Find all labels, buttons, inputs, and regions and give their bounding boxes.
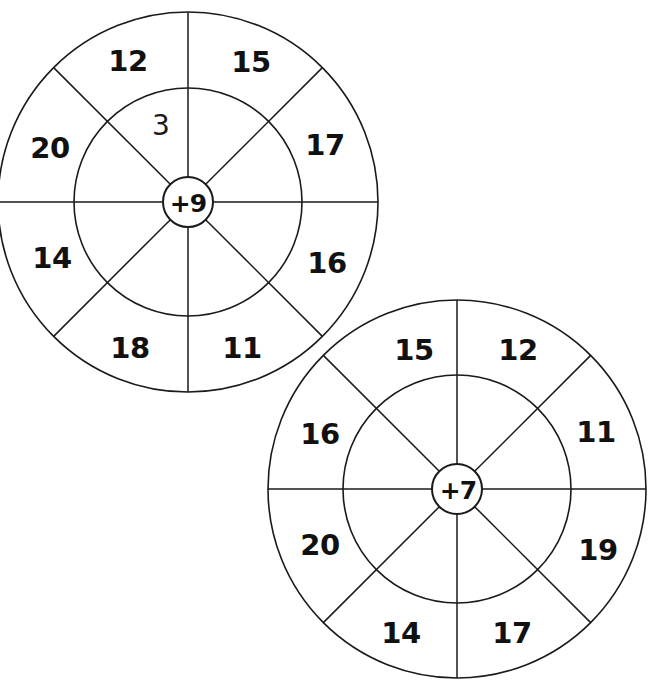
wheel-2-outer-number-4: 14 [381,619,420,648]
wheel-1-outer-number-2: 16 [307,249,346,278]
wheel-2-outer-number-6: 16 [300,420,339,449]
wheel-2-outer-number-3: 17 [492,619,531,648]
wheel-1-inner-answer-7[interactable]: 3 [152,112,170,140]
wheel-2-outer-number-7: 15 [394,336,433,365]
wheel-2-outer-number-1: 11 [576,418,615,447]
wheel-1-outer-number-6: 20 [30,134,69,163]
wheel-1-operator-label: +9 [170,191,206,216]
wheel-2-operator-label: +7 [440,478,476,503]
wheel-1-outer-number-5: 14 [32,244,71,273]
wheel-2-outer-number-2: 19 [578,536,617,565]
wheels-vector-layer [0,0,648,685]
wheel-1-outer-number-7: 12 [108,47,147,76]
wheel-2-outer-number-0: 12 [498,336,537,365]
wheel-1-outer-number-3: 11 [222,334,261,363]
wheel-1-outer-number-4: 18 [110,334,149,363]
wheel-1-outer-number-0: 15 [231,48,270,77]
worksheet-canvas: +9 15 17 16 11 18 14 20 12 3 +7 12 11 19… [0,0,648,685]
wheel-1-outer-number-1: 17 [305,131,344,160]
wheel-2-outer-number-5: 20 [300,531,339,560]
